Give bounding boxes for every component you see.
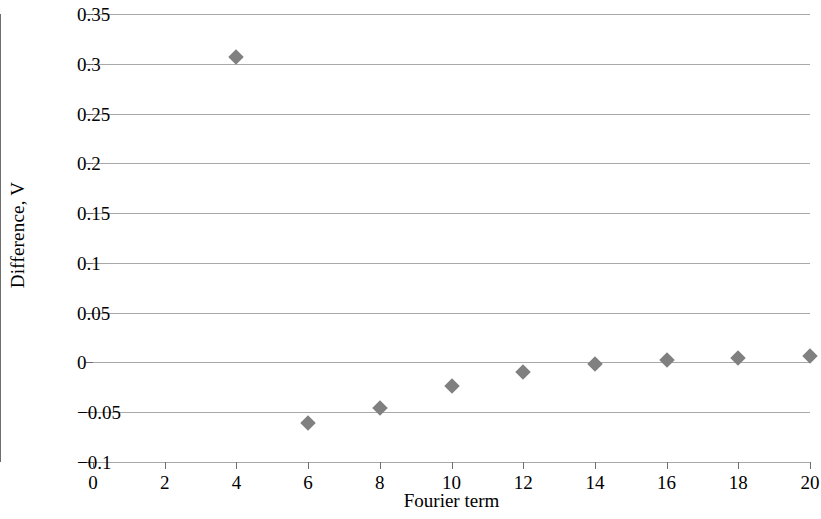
x-axis-tick [452, 462, 453, 469]
data-point [372, 400, 388, 416]
scatter-chart: Difference, V −0.1−0.0500.050.10.150.20.… [0, 0, 821, 519]
x-axis-title-label: Fourier term [404, 490, 500, 511]
x-axis-tick [738, 462, 739, 469]
data-point [515, 365, 531, 381]
plot-area [93, 14, 810, 462]
gridline [93, 313, 810, 314]
data-point [731, 351, 747, 367]
y-axis-tick: 0.35 [86, 14, 93, 15]
x-axis-tick [667, 462, 668, 469]
data-point [587, 357, 603, 373]
y-axis-tick: 0.15 [86, 213, 93, 214]
x-axis-tick [236, 462, 237, 469]
gridline [93, 14, 810, 15]
gridline [93, 412, 810, 413]
x-axis: 02468101214161820 [93, 462, 810, 492]
y-axis-tick: 0.1 [86, 263, 93, 264]
y-axis-title: Difference, V [0, 0, 36, 470]
gridline [93, 362, 810, 363]
x-axis-title: Fourier term [93, 490, 810, 512]
y-axis-tick: 0.2 [86, 163, 93, 164]
x-axis-tick [523, 462, 524, 469]
y-axis-tick: −0.1 [86, 462, 93, 463]
y-axis-tick: 0.3 [86, 64, 93, 65]
x-axis-tick [165, 462, 166, 469]
y-axis-title-label: Difference, V [7, 182, 29, 288]
x-axis-tick [380, 462, 381, 469]
gridline [93, 114, 810, 115]
gridline [93, 64, 810, 65]
y-axis-tick: 0.05 [86, 313, 93, 314]
data-point [659, 353, 675, 369]
gridline [93, 263, 810, 264]
x-axis-tick [595, 462, 596, 469]
gridline [93, 213, 810, 214]
data-point [444, 379, 460, 395]
x-axis-tick [93, 462, 94, 469]
data-point [229, 49, 245, 65]
data-point [300, 415, 316, 431]
y-axis-tick: 0.25 [86, 114, 93, 115]
gridline [93, 163, 810, 164]
x-axis-tick [308, 462, 309, 469]
x-axis-tick [810, 462, 811, 469]
y-axis-tick: −0.05 [86, 412, 93, 413]
y-axis-tick: 0 [86, 362, 93, 363]
y-axis-line [0, 14, 1, 462]
